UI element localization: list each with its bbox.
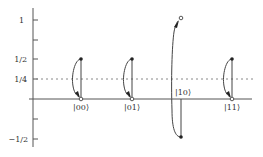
flip-curve-00 [72,59,81,97]
y-label-1-2: 1/2 [14,55,27,64]
final-point-00 [79,97,83,101]
final-point-11 [230,97,234,101]
ket-label-00: |00⟩ [73,103,89,112]
ket-label-10: |10⟩ [175,88,191,97]
final-point-01 [130,97,134,101]
flip-curve-11 [223,59,232,97]
state-11: |11⟩ [223,57,240,112]
y-label-1: 1 [19,16,24,25]
arrowhead-icon [174,20,179,28]
state-10: |10⟩ [172,16,191,139]
ket-label-01: |01⟩ [124,103,140,112]
initial-point-01 [130,57,134,61]
state-01: |01⟩ [123,57,140,112]
initial-point-10 [179,135,183,139]
final-point-10 [179,16,183,20]
state-00: |00⟩ [72,57,89,112]
amplitude-diagram: 1 1/2 1/4 −1/2 |00⟩ |01⟩ |10⟩ [0,0,263,157]
y-label-neg-1-2: −1/2 [8,135,28,144]
ket-label-11: |11⟩ [224,103,240,112]
flip-curve-01 [123,59,132,97]
initial-point-11 [230,57,234,61]
initial-point-00 [79,57,83,61]
y-label-1-4: 1/4 [14,75,27,84]
